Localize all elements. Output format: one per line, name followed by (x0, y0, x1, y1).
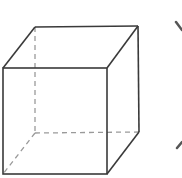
top-left-diagonal (3, 27, 35, 68)
hidden-edge-bottom-back (35, 132, 139, 133)
front-face (3, 68, 107, 174)
top-back-edge (35, 26, 138, 27)
visible-edges (3, 26, 139, 174)
top-right-diagonal (107, 26, 138, 68)
cube-svg (0, 0, 182, 178)
cube-diagram (0, 0, 182, 178)
hidden-edges (3, 27, 139, 174)
lower-mark (177, 142, 182, 148)
side-marks (176, 22, 182, 148)
upper-mark (176, 22, 182, 30)
back-right-vertical (138, 26, 139, 132)
hidden-edge-diagonal (3, 133, 35, 174)
bottom-right-diagonal (107, 132, 139, 174)
